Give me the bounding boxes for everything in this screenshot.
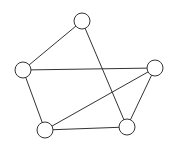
edge-left-right: [23, 68, 155, 70]
node-bottom-right: [119, 119, 135, 135]
node-bottom-left: [37, 122, 53, 138]
node-right: [147, 60, 163, 76]
edge-top-bottom-right: [82, 21, 127, 127]
node-left: [15, 62, 31, 78]
edge-bottom-left-bottom-right: [45, 127, 127, 130]
edge-top-left: [23, 21, 82, 70]
edge-right-bottom-left: [45, 68, 155, 130]
edge-left-bottom-left: [23, 70, 45, 130]
edge-right-bottom-right: [127, 68, 155, 127]
graph-diagram: [0, 0, 171, 147]
node-top: [74, 13, 90, 29]
